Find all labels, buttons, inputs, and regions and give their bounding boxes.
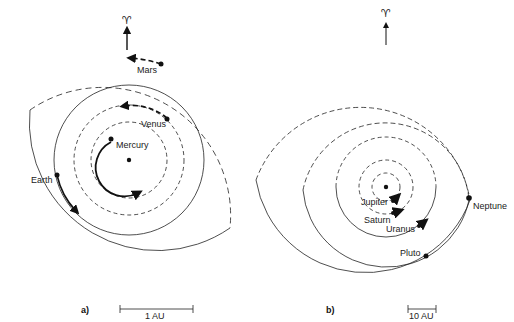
label-earth: Earth (31, 175, 53, 185)
pluto-dot (424, 254, 429, 259)
mercury-motion-arrow (96, 142, 138, 196)
sun-b (384, 185, 388, 189)
label-venus: Venus (141, 119, 167, 129)
uranus-orbit-dashed (336, 137, 436, 187)
panel-label-b: b) (326, 305, 335, 315)
jupiter-dot (391, 199, 395, 203)
scale-label-a: 1 AU (145, 311, 165, 321)
label-jupiter: Jupiter (361, 197, 388, 207)
mars-dot (159, 62, 164, 67)
label-mars: Mars (137, 65, 157, 75)
label-uranus: Uranus (386, 224, 416, 234)
label-mercury: Mercury (116, 140, 149, 150)
orbit-diagram: ♈ Mars Venus Mercury Earth a) 1 AU (0, 0, 514, 322)
saturn-dot (391, 211, 395, 215)
pluto-orbit-solid (256, 180, 470, 273)
venus-motion-arrow (124, 105, 167, 118)
earth-dot (55, 173, 60, 178)
scale-label-b: 10 AU (409, 311, 434, 321)
panel-a (29, 30, 230, 313)
equinox-symbol-b: ♈ (381, 7, 391, 20)
mars-orbit-dashed (30, 87, 231, 228)
uranus-dot (417, 224, 421, 228)
panel-label-a: a) (81, 305, 89, 315)
neptune-dot (466, 195, 472, 201)
pluto-orbit-dashed (256, 107, 470, 200)
label-neptune: Neptune (473, 201, 507, 211)
sun-a (127, 158, 131, 162)
panel-b (256, 25, 472, 313)
equinox-symbol-a: ♈ (122, 14, 132, 27)
mercury-dot (109, 137, 114, 142)
mars-motion-arrow (131, 58, 161, 64)
orbit-diagram-svg: ♈ Mars Venus Mercury Earth a) 1 AU (0, 0, 514, 322)
label-pluto: Pluto (400, 248, 421, 258)
